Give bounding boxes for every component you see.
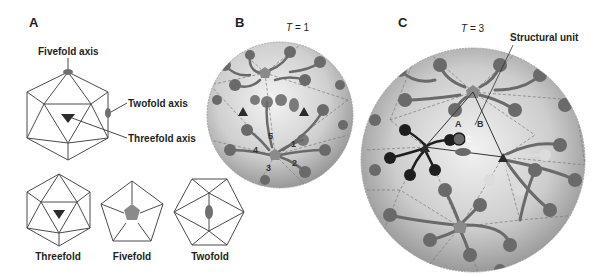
subunit-number-1: 1 [291, 139, 296, 149]
fivefold-view-diagram [95, 175, 170, 250]
subunit-number-2: 2 [292, 158, 297, 168]
fivefold-marker-icon [63, 69, 73, 75]
icosahedron-diagram [0, 0, 200, 170]
threefold-view-diagram [0, 170, 100, 250]
t-number-label-b: T = 1 [286, 22, 309, 33]
twofold-view-label: Twofold [175, 251, 245, 262]
t-number-label-c: T = 3 [461, 23, 484, 34]
fivefold-view-label: Fivefold [97, 251, 167, 262]
t1-capsid-sphere [205, 40, 355, 190]
subunit-number-3: 3 [266, 163, 271, 173]
twofold-marker-icon [105, 108, 111, 118]
subunit-number-4: 4 [253, 145, 258, 155]
subunit-letter-b: B [477, 119, 484, 129]
subunit-letter-a: A [455, 119, 462, 129]
panel-b-letter: B [235, 15, 244, 30]
subunit-letter-c: C [465, 134, 472, 144]
t3-capsid-sphere [360, 40, 600, 277]
threefold-symbol-icon [53, 210, 65, 219]
twofold-leader-line [111, 103, 127, 112]
twofold-symbol-icon [205, 205, 213, 219]
panel-c-letter: C [398, 15, 407, 30]
fivefold-symbol-icon [124, 204, 140, 220]
subunit-number-5: 5 [268, 131, 273, 141]
threefold-view-label: Threefold [23, 251, 93, 262]
